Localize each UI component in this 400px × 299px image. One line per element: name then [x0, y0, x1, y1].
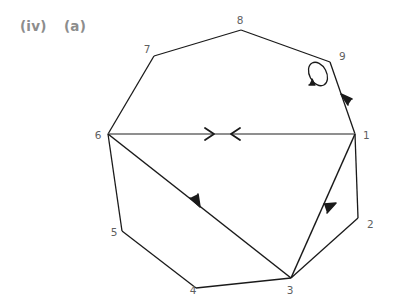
node-label-2: 2 — [367, 218, 374, 230]
node-label-7: 7 — [144, 43, 151, 55]
node-label-8: 8 — [237, 14, 244, 26]
directed-graph-diagram: 1 2 3 4 5 6 7 8 9 — [0, 0, 400, 299]
node-label-group: 1 2 3 4 5 6 7 8 9 — [95, 14, 374, 296]
edge-7-8 — [154, 30, 241, 56]
edge-4-5 — [122, 231, 196, 288]
edge-6-7 — [108, 56, 154, 134]
node-label-5: 5 — [111, 226, 118, 238]
node-label-9: 9 — [339, 50, 346, 62]
chord-edge-group — [108, 134, 355, 278]
node-label-4: 4 — [190, 284, 197, 296]
node-label-3: 3 — [287, 284, 294, 296]
graph-figure: (iv) (a) — [0, 0, 400, 299]
self-loop-group — [305, 59, 332, 89]
edge-1-2 — [355, 134, 358, 218]
polygon-edge-group — [108, 30, 358, 288]
node-label-6: 6 — [95, 129, 102, 141]
edge-5-6 — [108, 134, 122, 231]
arrowhead-3-to-1-icon — [324, 203, 336, 213]
self-loop-arrowhead-9-icon — [309, 79, 315, 85]
node-label-1: 1 — [363, 129, 370, 141]
edge-2-3 — [291, 218, 358, 278]
edge-8-9 — [241, 30, 330, 62]
edge-3-1 — [291, 134, 355, 278]
edge-3-4 — [196, 278, 291, 288]
